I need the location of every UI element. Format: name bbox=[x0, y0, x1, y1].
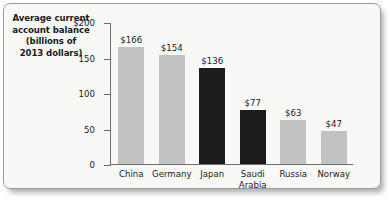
x-axis-category-label-line: Russia bbox=[279, 169, 307, 180]
x-axis-category-label-line: Japan bbox=[200, 169, 224, 180]
x-axis-category-label: SaudiArabia bbox=[239, 169, 267, 189]
bar bbox=[199, 68, 225, 164]
chart-axis-title-line: (billions of bbox=[6, 36, 96, 48]
bar bbox=[159, 55, 185, 164]
y-axis-tick-label: 150 bbox=[79, 54, 95, 64]
x-axis-category-label-line: Norway bbox=[317, 169, 350, 180]
y-axis-tick: 100 bbox=[104, 94, 111, 95]
bar-value-label: $77 bbox=[245, 98, 261, 108]
x-axis-category-label-line: Germany bbox=[152, 169, 192, 180]
y-axis-tick-label: 0 bbox=[90, 160, 95, 170]
y-axis-tick: 50 bbox=[104, 130, 111, 131]
bar-value-label: $154 bbox=[161, 43, 183, 53]
y-axis-tick-label: 50 bbox=[84, 125, 95, 135]
bar-slot: $63Russia bbox=[273, 23, 314, 164]
bar-group: $166China$154Germany$136Japan$77SaudiAra… bbox=[111, 23, 353, 164]
plot-area: 050100150$200 $166China$154Germany$136Ja… bbox=[110, 23, 353, 165]
bar-value-label: $47 bbox=[326, 119, 342, 129]
bar-slot: $166China bbox=[111, 23, 152, 164]
bar bbox=[321, 131, 347, 164]
bar-slot: $136Japan bbox=[192, 23, 233, 164]
x-axis-category-label: China bbox=[119, 169, 144, 180]
x-axis-category-label: Russia bbox=[279, 169, 307, 180]
x-axis-category-label-line: Saudi bbox=[239, 169, 267, 180]
x-axis-line bbox=[110, 164, 353, 165]
x-axis-category-label: Japan bbox=[200, 169, 224, 180]
x-axis-category-label-line: China bbox=[119, 169, 144, 180]
y-axis-tick-label: $200 bbox=[73, 18, 95, 28]
y-axis-tick: $200 bbox=[104, 23, 111, 24]
y-axis-tick-label: 100 bbox=[79, 89, 95, 99]
bar-slot: $77SaudiArabia bbox=[233, 23, 274, 164]
chart-frame: Average current account balance (billion… bbox=[3, 3, 381, 189]
y-axis-tick: 150 bbox=[104, 59, 111, 60]
bar-value-label: $63 bbox=[285, 108, 301, 118]
x-axis-category-label: Germany bbox=[152, 169, 192, 180]
bar-value-label: $166 bbox=[120, 35, 142, 45]
bar bbox=[118, 47, 144, 164]
y-axis-tick: 0 bbox=[104, 165, 111, 166]
chart-figure: Average current account balance (billion… bbox=[0, 0, 390, 206]
bar-value-label: $136 bbox=[201, 56, 223, 66]
bar bbox=[280, 120, 306, 164]
x-axis-category-label-line: Arabia bbox=[239, 180, 267, 190]
bar-slot: $154Germany bbox=[152, 23, 193, 164]
x-axis-category-label: Norway bbox=[317, 169, 350, 180]
bar bbox=[240, 110, 266, 164]
bar-slot: $47Norway bbox=[314, 23, 355, 164]
